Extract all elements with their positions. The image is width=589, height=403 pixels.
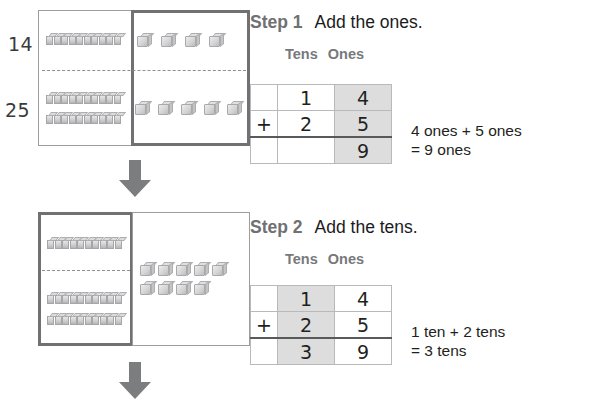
down-arrow-icon bbox=[118, 362, 152, 403]
unit-cube bbox=[194, 262, 208, 276]
step-1-r3-ones: 9 bbox=[335, 137, 392, 164]
step-1-instruction: Add the ones. bbox=[315, 12, 423, 32]
ten-rod bbox=[46, 33, 121, 46]
step-1-r2-tens: 2 bbox=[278, 111, 335, 138]
diagram1-row-divider bbox=[42, 70, 246, 71]
diagram2-row-divider bbox=[42, 270, 130, 271]
step-2-r1-tens: 1 bbox=[278, 286, 335, 312]
step-2-r3-tens: 3 bbox=[278, 338, 335, 365]
step-1-r2-sign: + bbox=[251, 111, 278, 138]
diagram1-ones-region bbox=[131, 10, 250, 146]
unit-cube bbox=[176, 281, 190, 295]
step-1-r1-tens: 1 bbox=[278, 85, 335, 111]
table-row: + 2 5 bbox=[251, 312, 392, 339]
step-1-r3-sign bbox=[251, 137, 278, 164]
unit-cube bbox=[209, 33, 223, 47]
step-2-instruction: Add the tens. bbox=[315, 217, 418, 237]
step-1-r1-ones: 4 bbox=[335, 85, 392, 111]
unit-cube bbox=[204, 101, 218, 115]
down-arrow-icon bbox=[118, 160, 152, 202]
step-2-r3-sign bbox=[251, 338, 278, 365]
step-2-note-line-2: = 3 tens bbox=[411, 341, 505, 360]
step-1-note-line-2: = 9 ones bbox=[411, 140, 522, 159]
table-row: + 2 5 bbox=[251, 111, 392, 138]
step-1-tens-header: Tens bbox=[285, 46, 318, 62]
diagram1-addend-top: 14 bbox=[8, 33, 33, 55]
table-row: 1 4 bbox=[251, 85, 392, 111]
diagram2-ones-region bbox=[132, 212, 250, 346]
step-2-label: Step 2 bbox=[250, 217, 303, 237]
ten-rod bbox=[47, 292, 122, 305]
step-2-column-headers: TensOnes bbox=[285, 251, 364, 267]
step-1-column-headers: TensOnes bbox=[285, 46, 364, 62]
step-1-r2-ones: 5 bbox=[335, 111, 392, 138]
step-2-place-value-table: 1 4 + 2 5 3 9 bbox=[250, 285, 392, 365]
step-1-note-line-1: 4 ones + 5 ones bbox=[411, 121, 522, 140]
unit-cube bbox=[140, 281, 154, 295]
ten-rod bbox=[46, 112, 121, 125]
step-1-note: 4 ones + 5 ones = 9 ones bbox=[411, 121, 522, 159]
step-1-r3-tens bbox=[278, 137, 335, 164]
base-ten-diagram-step-1 bbox=[38, 10, 250, 146]
unit-cube bbox=[176, 262, 190, 276]
unit-cube bbox=[158, 262, 172, 276]
unit-cube bbox=[212, 262, 226, 276]
unit-cube bbox=[185, 33, 199, 47]
unit-cube bbox=[181, 101, 195, 115]
step-2-ones-header: Ones bbox=[328, 251, 364, 267]
unit-cube bbox=[135, 101, 149, 115]
ten-rod bbox=[47, 313, 122, 326]
unit-cube bbox=[137, 33, 151, 47]
step-1-heading: Step 1Add the ones. bbox=[250, 12, 423, 33]
diagram1-tens-region bbox=[38, 10, 132, 146]
unit-cube bbox=[194, 281, 208, 295]
step-1-label: Step 1 bbox=[250, 12, 303, 32]
step-2-r1-ones: 4 bbox=[335, 286, 392, 312]
step-2-tens-header: Tens bbox=[285, 251, 318, 267]
unit-cube bbox=[140, 262, 154, 276]
ten-rod bbox=[46, 92, 121, 105]
step-1-ones-header: Ones bbox=[328, 46, 364, 62]
table-row: 1 4 bbox=[251, 286, 392, 312]
table-row: 9 bbox=[251, 137, 392, 164]
unit-cube bbox=[158, 281, 172, 295]
step-2-note-line-1: 1 ten + 2 tens bbox=[411, 322, 505, 341]
step-2-r1-sign bbox=[251, 286, 278, 312]
step-2-note: 1 ten + 2 tens = 3 tens bbox=[411, 322, 505, 360]
step-1-place-value-table: 1 4 + 2 5 9 bbox=[250, 84, 392, 164]
step-2-r2-tens: 2 bbox=[278, 312, 335, 339]
step-2-r2-ones: 5 bbox=[335, 312, 392, 339]
step-2-heading: Step 2Add the tens. bbox=[250, 217, 418, 238]
unit-cube bbox=[161, 33, 175, 47]
step-2-r3-ones: 9 bbox=[335, 338, 392, 365]
diagram1-addend-bottom: 25 bbox=[5, 99, 30, 121]
unit-cube bbox=[227, 101, 241, 115]
unit-cube bbox=[158, 101, 172, 115]
step-1-r1-sign bbox=[251, 85, 278, 111]
step-2-r2-sign: + bbox=[251, 312, 278, 339]
ten-rod bbox=[47, 237, 122, 250]
table-row: 3 9 bbox=[251, 338, 392, 365]
